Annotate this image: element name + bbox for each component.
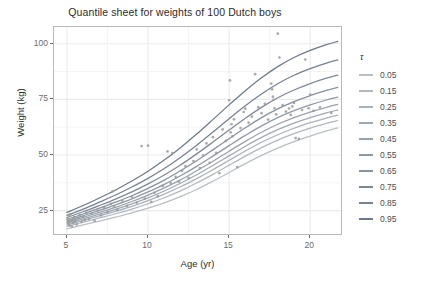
y-tick-mark [50,98,53,99]
legend-line-icon [358,102,374,112]
legend-line-icon [358,150,374,160]
legend-item[interactable]: 0.45 [358,131,420,147]
legend-item-label: 0.25 [380,102,397,112]
legend-item[interactable]: 0.35 [358,115,420,131]
legend-item[interactable]: 0.15 [358,83,420,99]
x-tick-mark [147,235,148,238]
legend-item-label: 0.75 [380,182,397,192]
y-tick-label: 100 [4,38,48,48]
legend: τ 0.050.150.250.350.450.550.650.750.850.… [358,52,420,227]
legend-item-label: 0.95 [380,214,397,224]
plot-svg [54,27,341,234]
legend-item-label: 0.55 [380,150,397,160]
y-tick-mark [50,210,53,211]
legend-line-icon [358,182,374,192]
legend-item[interactable]: 0.85 [358,195,420,211]
x-tick-mark [228,235,229,238]
y-tick-label: 75 [4,93,48,103]
y-tick-mark [50,154,53,155]
legend-line-icon [358,86,374,96]
chart-title: Quantile sheet for weights of 100 Dutch … [0,6,350,18]
legend-item-label: 0.15 [380,86,397,96]
y-tick-label: 50 [4,149,48,159]
legend-line-icon [358,214,374,224]
legend-line-icon [358,166,374,176]
legend-line-icon [358,70,374,80]
legend-item-label: 0.45 [380,134,397,144]
x-tick-label: 20 [289,240,329,250]
plot-panel [53,26,342,235]
legend-line-icon [358,134,374,144]
x-tick-label: 5 [46,240,86,250]
x-axis-title: Age (yr) [53,258,342,269]
legend-item-label: 0.05 [380,70,397,80]
y-tick-mark [50,43,53,44]
legend-line-icon [358,118,374,128]
legend-title: τ [360,52,420,62]
legend-line-icon [358,198,374,208]
legend-item[interactable]: 0.05 [358,67,420,83]
x-tick-label: 15 [208,240,248,250]
legend-item-label: 0.65 [380,166,397,176]
x-tick-mark [309,235,310,238]
data-points [66,32,332,227]
legend-item[interactable]: 0.65 [358,163,420,179]
legend-item-label: 0.35 [380,118,397,128]
chart-container: Quantile sheet for weights of 100 Dutch … [0,0,423,282]
legend-item[interactable]: 0.25 [358,99,420,115]
legend-item-label: 0.85 [380,198,397,208]
legend-item[interactable]: 0.95 [358,211,420,227]
legend-item[interactable]: 0.55 [358,147,420,163]
legend-items: 0.050.150.250.350.450.550.650.750.850.95 [358,67,420,227]
y-tick-label: 25 [4,205,48,215]
x-tick-label: 10 [127,240,167,250]
x-tick-mark [66,235,67,238]
legend-item[interactable]: 0.75 [358,179,420,195]
